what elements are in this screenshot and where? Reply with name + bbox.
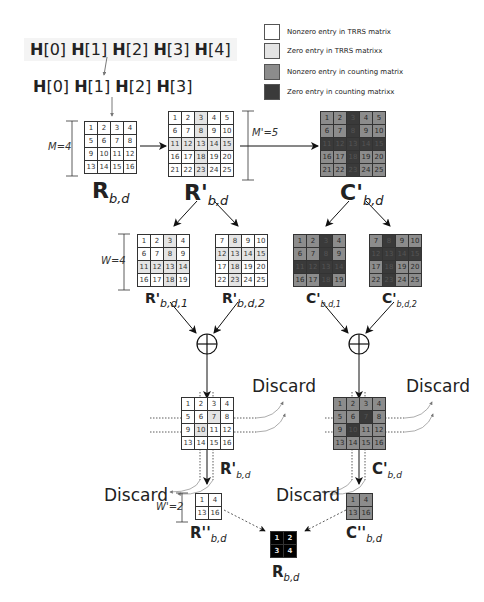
discard-label: Discard <box>406 376 470 396</box>
matrix-C-sum: 1234 5678 9101112 13141516 <box>333 397 386 450</box>
label-R-prime-2: R'b,d,2 <box>222 290 265 310</box>
matrix-C-prime: 12345 678910 1112131415 1617181920 21222… <box>320 111 386 177</box>
label-R-final: Rb,d <box>272 563 299 583</box>
matrix-R-double-prime: 14 1316 <box>195 493 222 520</box>
label-R-prime-1: R'b,d,1 <box>145 290 188 310</box>
matrix-R-final: 12 34 <box>270 531 297 558</box>
dim-M: M=4 <box>48 141 71 152</box>
dim-W: W=4 <box>101 255 126 266</box>
label-C-double-prime: C''b,d <box>346 524 382 544</box>
dim-M-prime: M'=5 <box>252 127 278 138</box>
label-R: Rb,d <box>92 178 130 206</box>
label-C-prime: C'b,d <box>340 180 384 208</box>
label-R-prime: R'b,d <box>184 180 228 208</box>
discard-label: Discard <box>276 485 340 505</box>
matrix-R: 1234 5678 9101112 13141516 <box>84 121 137 174</box>
label-R-prime-sum: R'b,d <box>220 460 250 480</box>
matrix-C-prime-2: 78910 12131415 17181920 22232425 <box>369 234 422 287</box>
matrix-C-double-prime: 14 1316 <box>346 493 373 520</box>
label-C-prime-1: C'b,d,1 <box>306 290 341 309</box>
matrix-R-prime-2: 78910 12131415 17181920 22232425 <box>215 234 268 287</box>
label-C-prime-2: C'b,d,2 <box>382 290 417 309</box>
matrix-R-prime-1: 1234 6789 11121314 16171819 <box>137 234 190 287</box>
matrix-R-sum: 1234 5678 9101112 13141516 <box>181 397 234 450</box>
discard-label: Discard <box>252 376 316 396</box>
matrix-C-prime-1: 1234 6789 11121314 16171819 <box>293 234 346 287</box>
dim-W-prime: W'=2 <box>156 501 183 512</box>
label-C-prime-sum: C'b,d <box>372 460 402 480</box>
label-R-double-prime: R''b,d <box>190 524 227 544</box>
matrix-R-prime: 12345 678910 1112131415 1617181920 21222… <box>168 111 234 177</box>
